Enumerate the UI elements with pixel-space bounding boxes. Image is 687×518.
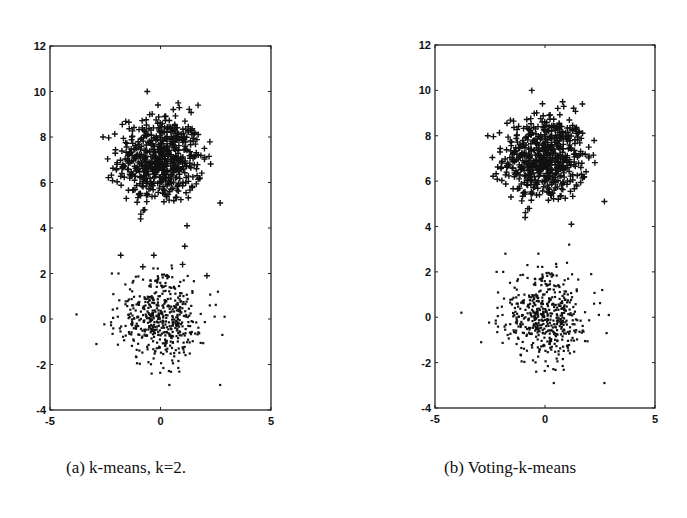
y-tick-label: 12: [419, 39, 431, 51]
y-tick-label: 10: [419, 84, 431, 96]
caption-a: (a) k-means, k=2.: [66, 458, 186, 478]
x-tick-label: -5: [430, 413, 440, 425]
y-tick-label: 2: [425, 266, 431, 278]
x-tick-label: 5: [652, 413, 658, 425]
y-tick-label: 0: [425, 311, 431, 323]
y-tick-label: 4: [425, 221, 432, 233]
y-tick-label: 8: [425, 130, 431, 142]
y-tick-label: -2: [421, 357, 431, 369]
data-points: [460, 87, 610, 384]
scatter-plot-b: -4-2024681012-505: [0, 0, 687, 518]
y-tick-label: 6: [425, 175, 431, 187]
x-tick-label: 0: [542, 413, 548, 425]
plot-frame: [435, 45, 655, 408]
caption-b: (b) Voting-k-means: [444, 458, 576, 478]
